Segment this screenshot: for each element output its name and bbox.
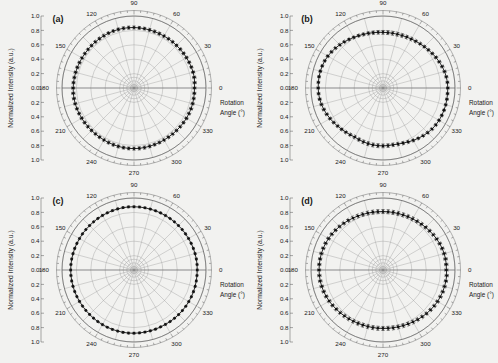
data-point bbox=[94, 41, 97, 44]
data-point bbox=[154, 209, 157, 212]
data-point bbox=[443, 109, 446, 112]
data-point bbox=[90, 44, 93, 47]
data-point bbox=[445, 268, 448, 271]
y-tick-label: 0.4 bbox=[31, 113, 40, 120]
data-point bbox=[175, 44, 178, 47]
data-point bbox=[407, 322, 410, 325]
data-point bbox=[332, 121, 335, 124]
data-point bbox=[323, 59, 326, 62]
data-point bbox=[78, 61, 81, 64]
data-point bbox=[143, 27, 146, 30]
angle-tick-label: 0 bbox=[219, 266, 223, 273]
data-point bbox=[179, 48, 182, 51]
y-tick-label: 0.2 bbox=[31, 251, 40, 258]
y-tick-label: 1.0 bbox=[280, 12, 289, 19]
data-point bbox=[153, 30, 156, 33]
data-point bbox=[175, 129, 178, 132]
data-point bbox=[407, 141, 410, 144]
angle-tick-label: 30 bbox=[204, 223, 211, 230]
svg-text:Angle (°): Angle (°) bbox=[469, 291, 494, 299]
y-tick-label: 0.4 bbox=[31, 294, 40, 301]
angle-tick-label: 90 bbox=[380, 182, 387, 188]
data-point bbox=[352, 216, 355, 219]
y-axis-title: Normalized Intensity (a.u.) bbox=[256, 230, 264, 309]
data-point bbox=[97, 320, 100, 323]
data-point bbox=[196, 268, 199, 271]
data-point bbox=[133, 205, 136, 208]
data-point bbox=[345, 131, 348, 134]
angle-tick-label: 120 bbox=[335, 192, 346, 199]
data-point bbox=[336, 125, 339, 128]
panel-letter-label: (c) bbox=[53, 196, 64, 206]
y-tick-label: 0.8 bbox=[280, 208, 289, 215]
data-point bbox=[78, 237, 81, 240]
data-point bbox=[72, 252, 75, 255]
data-point bbox=[416, 219, 419, 222]
svg-text:Rotation: Rotation bbox=[220, 281, 244, 288]
data-point bbox=[78, 112, 81, 115]
data-point bbox=[167, 37, 170, 40]
angle-tick-label: 300 bbox=[420, 339, 431, 346]
data-point bbox=[320, 285, 323, 288]
data-point bbox=[85, 309, 88, 312]
polar-chart-c: 1.00.80.60.40.20.00.20.40.60.81.0Normali… bbox=[0, 182, 249, 363]
angle-tick-label: 180 bbox=[288, 266, 299, 273]
data-point bbox=[438, 60, 441, 63]
data-point bbox=[73, 247, 76, 250]
data-point bbox=[318, 98, 321, 101]
data-point bbox=[117, 145, 120, 148]
data-point bbox=[149, 207, 152, 210]
data-point bbox=[386, 31, 389, 34]
angle-tick-label: 180 bbox=[39, 266, 50, 273]
data-point bbox=[387, 210, 390, 213]
data-point bbox=[362, 323, 365, 326]
panel-d: 1.00.80.60.40.20.00.20.40.60.81.0Normali… bbox=[249, 182, 498, 363]
data-point bbox=[116, 329, 119, 332]
data-point bbox=[445, 263, 448, 266]
data-point bbox=[85, 228, 88, 231]
data-point bbox=[122, 330, 125, 333]
data-point bbox=[159, 211, 162, 214]
data-point bbox=[328, 299, 331, 302]
data-point bbox=[81, 57, 84, 60]
data-point bbox=[138, 205, 141, 208]
y-tick-label: 0.2 bbox=[280, 70, 289, 77]
data-point bbox=[412, 320, 415, 323]
data-point bbox=[420, 222, 423, 225]
data-point bbox=[127, 26, 130, 29]
data-point bbox=[196, 263, 199, 266]
data-point bbox=[329, 117, 332, 120]
data-point bbox=[423, 45, 426, 48]
data-point bbox=[340, 128, 343, 131]
data-point bbox=[411, 217, 414, 220]
data-point bbox=[441, 290, 444, 293]
panel-letter-label: (b) bbox=[301, 14, 313, 24]
y-tick-label: 0.8 bbox=[31, 142, 40, 149]
data-point bbox=[102, 34, 105, 37]
data-point bbox=[377, 326, 380, 329]
y-tick-label: 1.0 bbox=[280, 338, 289, 345]
data-point bbox=[72, 284, 75, 287]
data-point bbox=[149, 329, 152, 332]
data-point bbox=[436, 300, 439, 303]
data-point bbox=[407, 215, 410, 218]
data-point bbox=[445, 75, 448, 78]
data-point bbox=[122, 146, 125, 149]
y-tick-label: 0.2 bbox=[31, 70, 40, 77]
data-point bbox=[92, 316, 95, 319]
data-point bbox=[335, 307, 338, 310]
data-point bbox=[352, 319, 355, 322]
data-point bbox=[127, 147, 130, 150]
y-tick-label: 0.6 bbox=[31, 41, 40, 48]
data-point bbox=[402, 142, 405, 145]
data-point bbox=[429, 308, 432, 311]
data-point bbox=[171, 41, 174, 44]
angle-tick-label: 0 bbox=[219, 84, 223, 91]
data-point bbox=[173, 316, 176, 319]
data-point bbox=[446, 81, 449, 84]
y-tick-label: 0.2 bbox=[280, 99, 289, 106]
data-point bbox=[327, 237, 330, 240]
y-tick-label: 0.4 bbox=[280, 237, 289, 244]
data-point bbox=[372, 326, 375, 329]
data-point bbox=[325, 113, 328, 116]
